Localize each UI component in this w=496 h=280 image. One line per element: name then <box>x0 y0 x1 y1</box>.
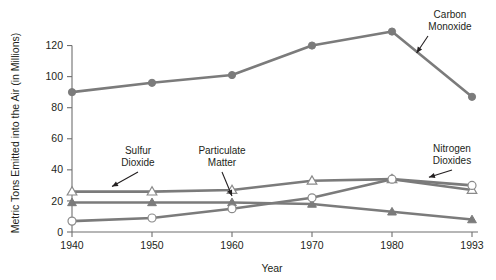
data-point-marker <box>228 205 236 213</box>
annotation-carbon-monoxide: CarbonMonoxide <box>417 9 473 53</box>
series-carbon-monoxide <box>68 28 475 100</box>
data-point-marker <box>68 89 75 96</box>
data-point-marker <box>148 79 155 86</box>
y-tick-label: 80 <box>51 101 63 113</box>
y-axis-title: Metric Tons Emitted into the Air (in Mil… <box>9 33 21 234</box>
annotation-label-line1: Sulfur <box>125 145 152 156</box>
annotation-label-line1: Particulate <box>198 145 246 156</box>
data-point-marker <box>388 28 395 35</box>
data-point-marker <box>148 214 156 222</box>
x-tick-label: 1970 <box>300 239 324 251</box>
annotation-nitrogen-dioxides: NitrogenDioxides <box>429 143 471 178</box>
annotation-label-line2: Monoxide <box>428 21 472 32</box>
x-tick-label: 1960 <box>220 239 244 251</box>
y-tick-label: 60 <box>51 132 63 144</box>
annotation-label-line2: Matter <box>208 157 237 168</box>
y-tick-label: 120 <box>45 39 63 51</box>
y-tick-label: 0 <box>57 226 63 238</box>
annotation-arrowhead <box>429 173 436 178</box>
y-tick-label: 40 <box>51 163 63 175</box>
series-line <box>72 32 472 97</box>
series-line <box>72 202 472 219</box>
annotations-group: SulfurDioxideParticulateMatterNitrogenDi… <box>112 9 472 196</box>
x-tick-label: 1993 <box>460 239 484 251</box>
annotation-label-line1: Nitrogen <box>433 143 471 154</box>
data-point-marker <box>308 194 316 202</box>
annotation-arrowhead <box>417 47 423 53</box>
x-tick-label: 1950 <box>140 239 164 251</box>
data-point-marker <box>308 42 315 49</box>
data-point-marker <box>468 181 476 189</box>
data-point-marker <box>68 217 76 225</box>
data-point-marker <box>228 71 235 78</box>
y-axis-title-group: Metric Tons Emitted into the Air (in Mil… <box>9 33 21 234</box>
x-axis-ticks: 194019501960197019801993 <box>60 232 484 251</box>
y-axis-ticks: 020406080100120 <box>45 39 72 237</box>
series-group <box>67 28 477 225</box>
chart-figure: Metric Tons Emitted into the Air (in Mil… <box>0 0 496 280</box>
annotation-label-line2: Dioxide <box>121 157 155 168</box>
annotation-label-line2: Dioxides <box>433 155 471 166</box>
x-tick-label: 1940 <box>60 239 84 251</box>
x-axis-title: Year <box>261 262 283 274</box>
line-chart-canvas: Metric Tons Emitted into the Air (in Mil… <box>0 0 496 280</box>
y-tick-label: 20 <box>51 195 63 207</box>
x-tick-label: 1980 <box>380 239 404 251</box>
annotation-sulfur-dioxide: SulfurDioxide <box>112 145 155 187</box>
y-tick-label: 100 <box>45 70 63 82</box>
annotation-label-line1: Carbon <box>434 9 467 20</box>
data-point-marker <box>468 93 475 100</box>
data-point-marker <box>388 175 396 183</box>
